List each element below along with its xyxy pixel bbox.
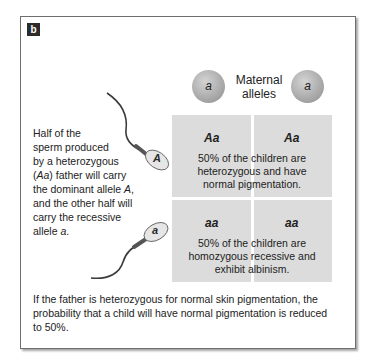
note-line: homozygous recessive and bbox=[168, 250, 336, 263]
genotype-2-1: aa bbox=[205, 216, 218, 230]
note-line: heterozygous and have bbox=[172, 165, 332, 178]
caption-line: probability that a child will have norma… bbox=[33, 306, 333, 320]
genotype-1-1: Aa bbox=[204, 131, 219, 145]
note-line: normal pigmentation. bbox=[172, 178, 332, 191]
note-line: 50% of the children are bbox=[168, 237, 336, 250]
caption-line: If the father is heterozygous for normal… bbox=[33, 292, 333, 306]
figure-caption: If the father is heterozygous for normal… bbox=[33, 292, 333, 334]
row-1-note: 50% of the children are heterozygous and… bbox=[172, 152, 332, 191]
note-line: 50% of the children are bbox=[172, 152, 332, 165]
genotype-2-2: aa bbox=[285, 216, 298, 230]
genotype-1-2: Aa bbox=[284, 131, 299, 145]
sperm-recessive-allele: a bbox=[152, 224, 158, 236]
row-2-note: 50% of the children are homozygous reces… bbox=[168, 237, 336, 276]
note-line: exhibit albinism. bbox=[168, 263, 336, 276]
caption-line: to 50%. bbox=[33, 320, 333, 334]
